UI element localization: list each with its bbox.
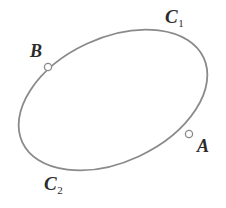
point-label-b: B (30, 42, 42, 60)
closed-curve-ellipse (0, 2, 226, 199)
arc-label-c1-subscript: 1 (178, 17, 184, 29)
point-label-a-base: A (197, 136, 209, 156)
figure-canvas: C1 C2 B A (0, 0, 226, 208)
arc-label-c1-base: C (165, 6, 178, 27)
point-marker-a[interactable] (185, 130, 192, 137)
arc-label-c2-base: C (44, 173, 57, 194)
point-marker-b[interactable] (44, 63, 51, 70)
arc-label-c2: C2 (44, 174, 63, 196)
arc-label-c1: C1 (165, 7, 184, 29)
arc-label-c2-subscript: 2 (57, 184, 63, 196)
curve-diagram-svg (0, 0, 226, 208)
point-label-a: A (197, 137, 209, 155)
point-label-b-base: B (30, 41, 42, 61)
